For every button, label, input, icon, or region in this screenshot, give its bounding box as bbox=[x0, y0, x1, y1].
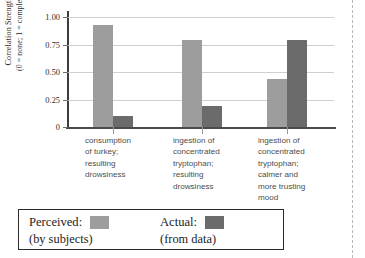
y-tick-label: 0.50 bbox=[45, 68, 60, 77]
bar-actual-1 bbox=[113, 116, 133, 127]
gridline bbox=[68, 17, 334, 18]
x-axis-line bbox=[66, 127, 336, 129]
bar-chart-figure: Correlation Strength (0 = none; 1 = comp… bbox=[0, 0, 352, 258]
y-axis-title-main: Correlation Strength bbox=[4, 0, 15, 87]
category-label-2: ingestion of concentrated tryptophan; re… bbox=[173, 135, 220, 192]
y-tick-mark bbox=[63, 45, 68, 46]
bar-perceived-1 bbox=[93, 25, 113, 127]
category-label-1: consumption of turkey; resulting drowsin… bbox=[85, 135, 131, 181]
category-tick bbox=[113, 127, 114, 134]
bar-actual-3 bbox=[287, 40, 307, 127]
y-axis-line bbox=[67, 11, 69, 128]
y-tick-label: 0.25 bbox=[45, 95, 60, 104]
y-tick-mark bbox=[63, 127, 68, 128]
y-axis-title-note: (0 = none; 1 = complete) bbox=[15, 0, 26, 87]
y-tick-mark bbox=[63, 72, 68, 73]
legend-sublabel-perceived: (by subjects) bbox=[29, 232, 109, 247]
bar-actual-2 bbox=[202, 106, 222, 127]
plot-area: 00.250.500.751.00 bbox=[68, 17, 334, 127]
category-tick bbox=[202, 127, 203, 134]
y-axis-title: Correlation Strength (0 = none; 1 = comp… bbox=[4, 0, 32, 87]
category-tick bbox=[287, 127, 288, 134]
legend-entry-actual: Actual: (from data) bbox=[160, 214, 224, 247]
legend-swatch-actual bbox=[205, 216, 224, 229]
category-label-3: ingestion of concentrated tryptophan; ca… bbox=[258, 135, 305, 203]
page-edge-rule bbox=[352, 0, 353, 258]
bar-perceived-2 bbox=[182, 40, 202, 127]
legend-label-perceived: Perceived: bbox=[29, 215, 82, 230]
y-tick-label: 0.75 bbox=[45, 40, 60, 49]
legend-swatch-perceived bbox=[90, 216, 109, 229]
y-tick-label: 1.00 bbox=[45, 13, 60, 22]
y-tick-mark bbox=[63, 100, 68, 101]
bar-perceived-3 bbox=[267, 79, 287, 127]
y-tick-label: 0 bbox=[56, 123, 60, 132]
chart-legend: Perceived: (by subjects) Actual: (from d… bbox=[18, 209, 284, 250]
legend-entry-perceived: Perceived: (by subjects) bbox=[29, 214, 109, 247]
legend-label-actual: Actual: bbox=[160, 215, 197, 230]
y-tick-mark bbox=[63, 17, 68, 18]
legend-sublabel-actual: (from data) bbox=[160, 232, 224, 247]
